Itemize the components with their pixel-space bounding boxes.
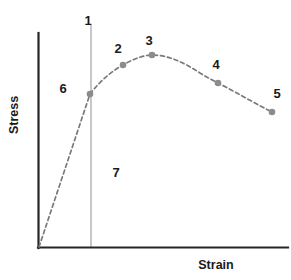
point-label-1: 1	[84, 14, 91, 27]
point-label-4: 4	[212, 58, 219, 71]
data-point-marker-1	[87, 91, 94, 98]
point-label-6: 6	[59, 82, 66, 95]
data-point-marker-3	[149, 52, 156, 59]
x-axis-title: Strain	[198, 259, 233, 272]
stress-strain-chart: 1 2 3 4 5 6 7 Stress Strain	[0, 0, 291, 280]
point-label-7: 7	[112, 166, 119, 179]
point-label-3: 3	[145, 34, 152, 47]
point-label-2: 2	[114, 42, 121, 55]
data-point-marker-4	[215, 80, 222, 87]
point-label-5: 5	[273, 87, 280, 100]
stress-strain-curve	[39, 55, 272, 247]
y-axis-title: Stress	[8, 96, 21, 134]
data-point-marker-2	[120, 62, 127, 69]
data-point-marker-5	[269, 109, 276, 116]
